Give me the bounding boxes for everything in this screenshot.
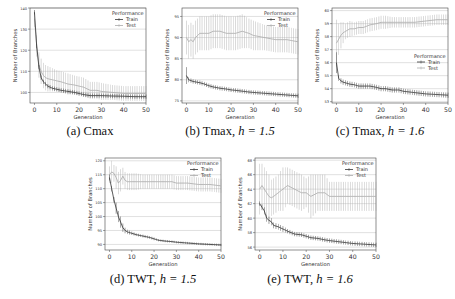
y-tick-label: 56 — [324, 61, 329, 65]
x-tick-label: 0 — [107, 253, 111, 260]
y-tick-label: 90 — [97, 243, 102, 247]
caption-d: (d) TWT, h = 1.5 — [88, 272, 218, 287]
chart-a: 10011012013014001020304050GenerationNumb… — [0, 0, 150, 125]
x-axis-label: Generation — [149, 261, 178, 267]
x-tick-label: 10 — [53, 106, 61, 113]
y-axis-label: Number of Branches — [314, 29, 320, 83]
x-axis-label: Generation — [376, 114, 405, 120]
y-tick-label: 115 — [95, 173, 102, 177]
x-tick-label: 30 — [172, 253, 180, 260]
caption-c: (c) Tmax, h = 1.6 — [315, 124, 445, 139]
y-tick-label: 130 — [20, 28, 28, 32]
chart-panel-d: 909510010511011512001020304050Generation… — [75, 150, 225, 272]
y-tick-label: 56 — [247, 246, 252, 250]
x-tick-label: 40 — [349, 253, 357, 260]
x-tick-label: 40 — [272, 106, 280, 113]
legend-test: Test — [200, 172, 211, 178]
y-tick-label: 120 — [20, 49, 28, 53]
x-axis-label: Generation — [301, 261, 330, 267]
y-tick-label: 80 — [174, 78, 179, 82]
x-axis-label: Generation — [226, 114, 255, 120]
x-tick-label: 30 — [249, 106, 257, 113]
y-tick-label: 62 — [247, 202, 252, 206]
legend: PerformanceTrainTest — [187, 160, 219, 178]
x-tick-label: 10 — [355, 106, 363, 113]
x-tick-label: 20 — [150, 253, 158, 260]
y-tick-label: 95 — [174, 15, 179, 19]
x-tick-label: 50 — [294, 106, 302, 113]
y-tick-label: 105 — [95, 201, 102, 205]
x-tick-label: 30 — [97, 106, 105, 113]
y-tick-label: 100 — [20, 91, 28, 95]
y-tick-label: 66 — [247, 173, 252, 177]
caption-b: (b) Tmax, h = 1.5 — [165, 124, 295, 139]
legend-test: Test — [427, 65, 438, 71]
y-axis-label: Number of Branches — [164, 29, 170, 83]
x-tick-label: 40 — [422, 106, 430, 113]
x-tick-label: 0 — [334, 106, 338, 113]
x-tick-label: 30 — [399, 106, 407, 113]
x-tick-label: 20 — [377, 106, 385, 113]
chart-e: 5658606264666801020304050GenerationNumbe… — [225, 150, 380, 272]
y-tick-label: 90 — [174, 36, 179, 40]
y-tick-label: 54 — [324, 87, 329, 91]
series-train — [186, 67, 298, 98]
y-axis-label: Number of Branches — [12, 29, 18, 83]
chart-c: 535455565758596001020304050GenerationNum… — [302, 0, 452, 125]
legend: PerformanceTrainTest — [264, 10, 296, 28]
y-tick-label: 100 — [95, 215, 103, 219]
y-tick-label: 64 — [247, 188, 252, 192]
y-tick-label: 60 — [324, 9, 329, 13]
x-tick-label: 0 — [32, 106, 36, 113]
y-tick-label: 110 — [95, 187, 103, 191]
legend-test: Test — [125, 22, 136, 28]
x-tick-label: 20 — [302, 253, 310, 260]
x-tick-label: 50 — [217, 253, 225, 260]
y-tick-label: 55 — [324, 74, 329, 78]
legend: PerformanceTrainTest — [112, 10, 144, 28]
x-tick-label: 40 — [195, 253, 203, 260]
y-tick-label: 68 — [247, 159, 252, 163]
chart-panel-b: 758085909501020304050GenerationNumber of… — [152, 0, 302, 125]
x-axis-label: Generation — [74, 114, 103, 120]
caption-e: (e) TWT, h = 1.6 — [245, 272, 375, 287]
y-tick-label: 95 — [97, 229, 102, 233]
legend-test: Test — [277, 22, 288, 28]
chart-panel-a: 10011012013014001020304050GenerationNumb… — [0, 0, 150, 125]
legend: PerformanceTrainTest — [342, 160, 374, 178]
legend-test: Test — [355, 172, 366, 178]
y-axis-label: Number of Branches — [87, 177, 93, 231]
y-tick-label: 75 — [174, 99, 179, 103]
chart-panel-c: 535455565758596001020304050GenerationNum… — [302, 0, 452, 125]
chart-panel-e: 5658606264666801020304050GenerationNumbe… — [225, 150, 380, 272]
x-tick-label: 10 — [128, 253, 136, 260]
x-tick-label: 10 — [205, 106, 213, 113]
y-tick-label: 58 — [324, 35, 329, 39]
x-tick-label: 30 — [326, 253, 334, 260]
chart-d: 909510010511011512001020304050Generation… — [75, 150, 225, 272]
y-tick-label: 140 — [20, 7, 28, 11]
x-tick-label: 0 — [184, 106, 188, 113]
y-tick-label: 58 — [247, 231, 252, 235]
x-tick-label: 20 — [227, 106, 235, 113]
x-tick-label: 20 — [75, 106, 83, 113]
y-tick-label: 120 — [95, 159, 103, 163]
legend: PerformanceTrainTest — [414, 53, 446, 71]
x-tick-label: 50 — [444, 106, 452, 113]
y-axis-label: Number of Branches — [237, 177, 243, 231]
x-tick-label: 50 — [142, 106, 150, 113]
y-tick-label: 57 — [324, 48, 329, 52]
y-tick-label: 59 — [324, 22, 329, 26]
caption-a: (a) Cmax — [40, 124, 140, 139]
y-tick-label: 60 — [247, 217, 252, 221]
x-tick-label: 50 — [372, 253, 380, 260]
y-tick-label: 85 — [174, 57, 179, 61]
y-tick-label: 110 — [20, 70, 28, 74]
y-tick-label: 53 — [324, 100, 329, 104]
x-tick-label: 40 — [120, 106, 128, 113]
chart-b: 758085909501020304050GenerationNumber of… — [152, 0, 302, 125]
x-tick-label: 10 — [279, 253, 287, 260]
x-tick-label: 0 — [258, 253, 262, 260]
